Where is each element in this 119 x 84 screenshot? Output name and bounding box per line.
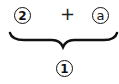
circled-1: 1	[56, 60, 73, 77]
label-1: 1	[60, 63, 68, 75]
